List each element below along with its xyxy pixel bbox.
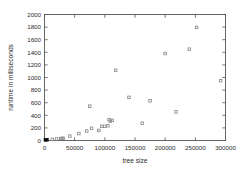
y-tick-label: 1600 — [27, 36, 41, 43]
scatter-plot-figure: 0200400600800100012001400160018002000 05… — [0, 0, 248, 176]
data-point-marker — [46, 138, 49, 141]
y-tick-label: 200 — [31, 124, 42, 131]
y-tick-label: 0 — [38, 137, 42, 144]
x-tick-label: 50000 — [66, 144, 84, 151]
y-tick-label: 1200 — [27, 61, 41, 68]
x-tick-label: 300000 — [215, 144, 236, 151]
chart-canvas: 0200400600800100012001400160018002000 05… — [0, 0, 248, 176]
y-tick-label: 400 — [31, 112, 42, 119]
y-tick-label: 1800 — [27, 23, 41, 30]
y-tick-label: 2000 — [27, 11, 41, 18]
y-tick-label: 1400 — [27, 49, 41, 56]
y-tick-label: 600 — [31, 99, 42, 106]
y-tick-label: 1000 — [27, 74, 41, 81]
y-axis-title: runtime in milliseconds — [7, 43, 14, 110]
x-tick-label: 250000 — [185, 144, 206, 151]
y-tick-label: 800 — [31, 86, 42, 93]
x-tick-label: 150000 — [125, 144, 146, 151]
x-tick-label: 100000 — [95, 144, 116, 151]
x-tick-label: 0 — [43, 144, 47, 151]
x-axis-title: tree size — [123, 157, 148, 164]
x-tick-label: 200000 — [155, 144, 176, 151]
